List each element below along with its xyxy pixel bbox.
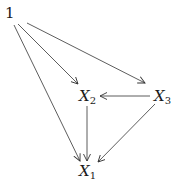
edge-1-to-x1: [14, 25, 80, 161]
edge-1-to-x3: [27, 23, 145, 83]
edge-x3-to-x1: [98, 104, 155, 162]
node-x2: X2: [79, 89, 96, 106]
diagram-canvas: 1 X2 X3 X1: [0, 0, 178, 183]
node-x3-var: X: [154, 87, 165, 105]
node-x1: X1: [79, 164, 96, 181]
node-x3: X3: [154, 89, 171, 106]
node-x1-sub: 1: [90, 170, 96, 181]
node-x1-var: X: [79, 162, 90, 180]
node-x2-sub: 2: [90, 95, 96, 106]
node-one-label: 1: [5, 4, 15, 22]
node-x2-var: X: [79, 87, 90, 105]
edge-1-to-x2: [18, 24, 78, 84]
node-x3-sub: 3: [165, 95, 171, 106]
node-one: 1: [5, 6, 15, 21]
